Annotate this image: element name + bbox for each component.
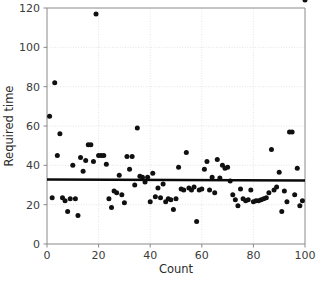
x-tick-label: 80 (246, 249, 260, 262)
data-point (171, 207, 176, 212)
data-point (284, 199, 289, 204)
data-point (148, 199, 153, 204)
y-tick-label: 100 (19, 41, 40, 54)
data-point (65, 209, 70, 214)
data-point (78, 155, 83, 160)
data-point (155, 185, 160, 190)
data-point (75, 213, 80, 218)
data-point (279, 209, 284, 214)
data-point (161, 182, 166, 187)
data-point (57, 131, 62, 136)
x-tick-label: 60 (195, 249, 209, 262)
data-point (104, 162, 109, 167)
figure-background (0, 0, 327, 281)
data-point (274, 184, 279, 189)
data-point (212, 190, 217, 195)
data-point (150, 171, 155, 176)
data-point (83, 158, 88, 163)
data-point (130, 154, 135, 159)
data-point (47, 114, 52, 119)
y-tick-label: 40 (26, 159, 40, 172)
data-point (88, 142, 93, 147)
data-point (230, 192, 235, 197)
data-point (132, 183, 137, 188)
data-point (119, 192, 124, 197)
data-point (192, 184, 197, 189)
data-point (235, 203, 240, 208)
x-tick-label: 40 (143, 249, 157, 262)
data-point (215, 157, 220, 162)
data-point (91, 159, 96, 164)
data-point (297, 203, 302, 208)
x-tick-label: 20 (92, 249, 106, 262)
data-point (266, 190, 271, 195)
data-point (225, 165, 230, 170)
data-point (52, 80, 57, 85)
data-point (168, 197, 173, 202)
data-point (158, 195, 163, 200)
y-tick-label: 80 (26, 81, 40, 94)
data-point (114, 190, 119, 195)
data-point (204, 159, 209, 164)
data-point (101, 153, 106, 158)
data-point (106, 196, 111, 201)
y-tick-label: 60 (26, 120, 40, 133)
scatter-plot-figure: 020406080100 020406080100120 Count Requi… (0, 0, 327, 281)
chart-canvas: 020406080100 020406080100120 Count Requi… (0, 0, 327, 281)
data-point (238, 186, 243, 191)
data-point (117, 173, 122, 178)
data-point (194, 219, 199, 224)
data-point (135, 125, 140, 130)
data-point (295, 166, 300, 171)
data-point (153, 194, 158, 199)
data-point (184, 150, 189, 155)
y-axis-title: Required time (2, 86, 16, 167)
data-point (176, 165, 181, 170)
data-point (94, 11, 99, 16)
data-point (277, 170, 282, 175)
data-point (292, 192, 297, 197)
data-point (282, 188, 287, 193)
data-point (269, 147, 274, 152)
data-point (248, 187, 253, 192)
data-point (124, 154, 129, 159)
data-point (70, 163, 75, 168)
data-point (55, 153, 60, 158)
data-point (122, 200, 127, 205)
y-tick-label: 0 (33, 238, 40, 251)
data-point (127, 167, 132, 172)
data-point (181, 187, 186, 192)
data-point (68, 196, 73, 201)
trend-line (47, 179, 305, 180)
x-tick-label: 100 (295, 249, 316, 262)
data-point (174, 196, 179, 201)
data-point (199, 186, 204, 191)
data-point (109, 205, 114, 210)
x-tick-label: 0 (44, 249, 51, 262)
data-point (202, 167, 207, 172)
x-axis-title: Count (159, 262, 194, 276)
data-point (290, 129, 295, 134)
data-point (207, 187, 212, 192)
data-point (50, 195, 55, 200)
y-tick-label: 20 (26, 199, 40, 212)
y-tick-label: 120 (19, 2, 40, 15)
data-point (233, 197, 238, 202)
data-point (246, 197, 251, 202)
data-point (63, 198, 68, 203)
data-point (300, 198, 305, 203)
data-point (264, 195, 269, 200)
data-point (73, 196, 78, 201)
data-point (81, 169, 86, 174)
